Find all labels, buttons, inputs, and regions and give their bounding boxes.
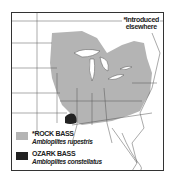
- legend-item-rock-bass: *ROCK BASS Ambloplites rupestris: [16, 130, 106, 150]
- legend: *ROCK BASS Ambloplites rupestris OZARK B…: [16, 130, 106, 170]
- ozark-bass-swatch: [16, 152, 28, 160]
- legend-item-ozark-bass: OZARK BASS Ambloplites constellatus: [16, 150, 106, 170]
- legend-name: *ROCK BASS: [32, 130, 74, 137]
- introduced-note: *Introduced elsewhere: [122, 16, 160, 30]
- legend-scientific-name: Ambloplites constellatus: [32, 158, 102, 165]
- note-line-1: *Introduced: [123, 16, 159, 23]
- note-line-2: elsewhere: [123, 23, 159, 30]
- rock-bass-range: [50, 31, 152, 125]
- range-map: *Introduced elsewhere *ROCK BASS Amblopl…: [11, 12, 164, 171]
- rock-bass-swatch: [16, 132, 28, 140]
- legend-scientific-name: Ambloplites rupestris: [32, 138, 93, 145]
- legend-name: OZARK BASS: [32, 150, 75, 157]
